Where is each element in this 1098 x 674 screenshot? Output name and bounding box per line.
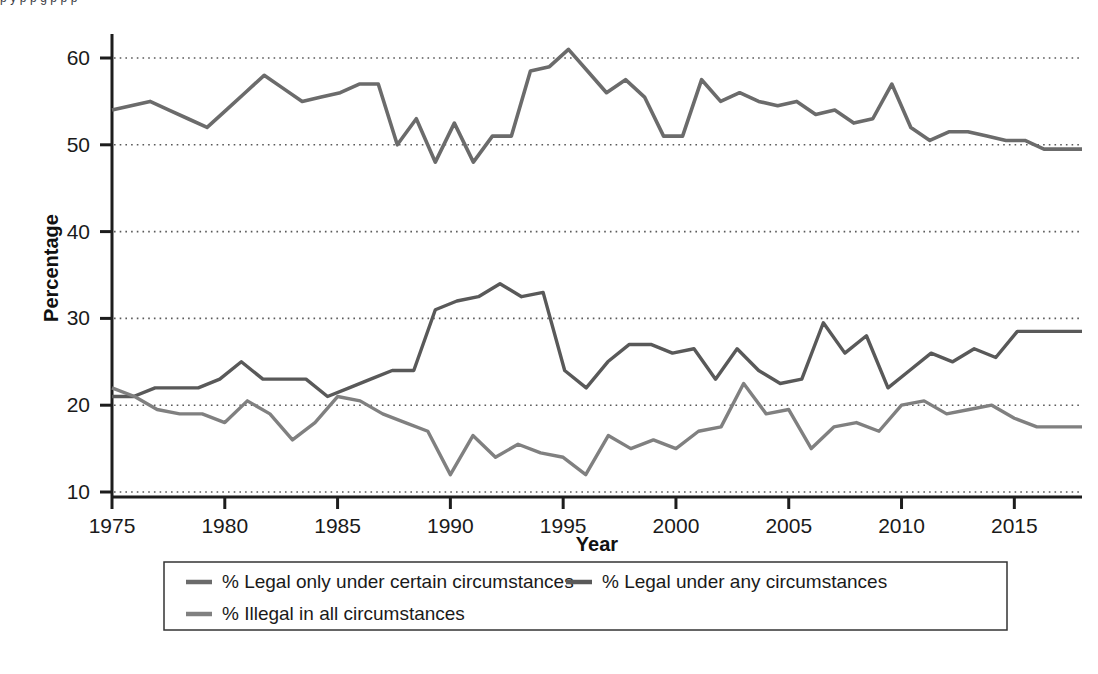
y-tick-label-60: 60: [67, 46, 90, 69]
series-line-1: [112, 284, 1082, 397]
line-chart-figure: p y p p g p p p 102030405060 19751980198…: [0, 0, 1098, 674]
y-axis-ticks: [100, 58, 112, 492]
y-tick-label-20: 20: [67, 393, 90, 416]
y-axis-tick-labels: 102030405060: [67, 46, 90, 503]
clipped-header-text: p y p p g p p p: [0, 0, 1098, 5]
x-tick-label-1985: 1985: [314, 514, 361, 537]
x-tick-label-2015: 2015: [991, 514, 1038, 537]
x-tick-label-1975: 1975: [89, 514, 136, 537]
x-tick-label-2000: 2000: [653, 514, 700, 537]
series-line-2: [112, 384, 1082, 475]
x-tick-label-1980: 1980: [201, 514, 248, 537]
legend-label-0: % Legal under any circumstances: [602, 571, 887, 592]
x-tick-label-2005: 2005: [765, 514, 812, 537]
x-tick-label-1990: 1990: [427, 514, 474, 537]
y-axis-title: Percentage: [40, 214, 62, 322]
legend-label-2: % Illegal in all circumstances: [222, 603, 465, 624]
gridlines: [114, 58, 1082, 492]
y-tick-label-40: 40: [67, 220, 90, 243]
x-tick-label-2010: 2010: [878, 514, 925, 537]
x-axis-tick-labels: 197519801985199019952000200520102015: [89, 514, 1038, 537]
y-tick-label-50: 50: [67, 133, 90, 156]
chart-legend: % Legal only under certain circumstances…: [164, 562, 1007, 630]
chart-canvas: 102030405060 197519801985199019952000200…: [0, 0, 1098, 674]
x-axis-title: Year: [576, 533, 618, 555]
series-lines: [112, 49, 1082, 474]
y-tick-label-30: 30: [67, 306, 90, 329]
x-axis-ticks: [112, 497, 1014, 509]
legend-label-1: % Legal only under certain circumstances: [222, 571, 574, 592]
y-tick-label-10: 10: [67, 480, 90, 503]
